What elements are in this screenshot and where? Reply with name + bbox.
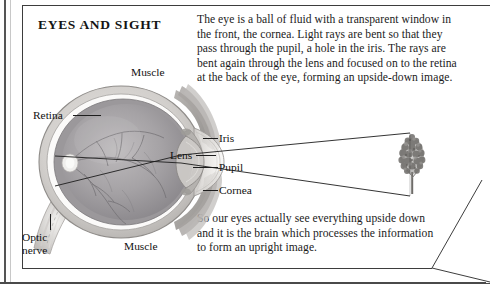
label-optic-nerve: Optic nerve xyxy=(22,231,66,258)
label-muscle-top: Muscle xyxy=(131,66,165,79)
leader-line-pupil xyxy=(193,167,218,168)
book-page: EYES AND SIGHT The eye is a ball of flui… xyxy=(0,0,490,287)
label-iris: Iris xyxy=(219,132,234,145)
page-title: EYES AND SIGHT xyxy=(38,17,161,33)
panel-border-bottom xyxy=(22,268,432,269)
leader-line-optic-nerve xyxy=(50,214,51,230)
leader-line-cornea xyxy=(203,190,218,191)
label-retina: Retina xyxy=(33,109,63,122)
label-lens: Lens xyxy=(170,149,192,162)
leader-line-lens xyxy=(196,155,216,156)
panel-border-left xyxy=(22,5,23,269)
tree-illustration xyxy=(392,132,432,198)
page-gutter-line xyxy=(4,0,6,283)
label-muscle-bottom: Muscle xyxy=(124,240,158,253)
leader-line-retina xyxy=(73,115,101,116)
label-pupil: Pupil xyxy=(219,161,243,174)
label-cornea: Cornea xyxy=(219,184,252,197)
page-gutter-line-secondary xyxy=(10,0,11,283)
leader-line-iris xyxy=(203,138,218,139)
panel-border-top xyxy=(22,5,490,6)
